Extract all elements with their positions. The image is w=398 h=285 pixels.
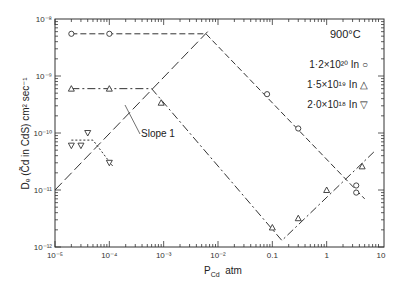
x-tick-label: 10⁻³ <box>156 251 172 260</box>
data-point-circle <box>264 92 269 97</box>
data-point-triangle-down <box>68 143 74 149</box>
data-point-triangle-down <box>85 131 91 137</box>
x-tick-label: 10⁻² <box>210 251 226 260</box>
y-tick-label: 10⁻⁹ <box>36 72 52 81</box>
x-tick-label: 0.1 <box>267 251 279 260</box>
legend-item-2: 1·5×10¹⁹ In △ <box>288 75 368 95</box>
x-tick-label: 1 <box>324 251 329 260</box>
legend-item-1: 1·2×10²⁰ In ○ <box>288 55 368 75</box>
fit-line <box>71 140 113 167</box>
data-point-circle <box>69 31 74 36</box>
fit-line <box>55 30 210 190</box>
data-point-triangle-down <box>78 143 84 149</box>
legend: 1·2×10²⁰ In ○ 1·5×10¹⁹ In △ 2·0×10¹⁸ In … <box>288 55 368 115</box>
temperature-label: 900°C <box>330 28 361 40</box>
data-point-circle <box>354 190 359 195</box>
chart: 10⁻⁵10⁻⁴10⁻³10⁻²0.111010⁻⁸10⁻⁹10⁻¹⁰10⁻¹¹… <box>0 0 398 285</box>
data-point-circle <box>354 183 359 188</box>
data-point-triangle-up <box>295 215 301 221</box>
x-tick-label: 10 <box>377 251 386 260</box>
data-point-triangle-up <box>359 163 365 169</box>
plot-frame <box>55 19 384 247</box>
x-tick-label: 10⁻⁵ <box>47 251 63 260</box>
y-tick-label: 10⁻¹⁰ <box>33 129 52 138</box>
x-tick-label: 10⁻⁴ <box>101 251 118 260</box>
y-tick-label: 10⁻¹² <box>34 243 53 252</box>
legend-item-3: 2·0×10¹⁸ In ▽ <box>288 95 368 115</box>
data-point-triangle-up <box>324 187 330 193</box>
data-point-circle <box>107 31 112 36</box>
x-axis-label: PCd atm <box>204 265 242 278</box>
y-axis-label: Dₑ (C̃d in CdS) cm² sec⁻¹ <box>20 49 31 219</box>
slope-label: Slope 1 <box>141 128 175 139</box>
y-tick-label: 10⁻¹¹ <box>34 186 53 195</box>
data-point-circle <box>296 126 301 131</box>
slope-leader-line <box>125 105 140 134</box>
y-tick-label: 10⁻⁸ <box>36 15 52 24</box>
